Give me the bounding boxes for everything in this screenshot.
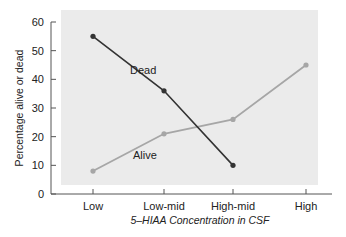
y-tick-label: 60 [32, 16, 44, 28]
data-point-alive [303, 62, 308, 67]
x-tick-label: High-mid [211, 200, 255, 212]
data-point-dead [161, 88, 166, 93]
y-axis-title: Percentage alive or dead [13, 49, 25, 166]
x-tick-label: Low [83, 200, 103, 212]
data-point-alive [161, 131, 166, 136]
x-tick-label: High [295, 200, 318, 212]
series-label-dead: Dead [130, 64, 156, 76]
data-point-alive [230, 117, 235, 122]
plot-background [61, 10, 318, 185]
y-tick-label: 40 [32, 73, 44, 85]
data-point-alive [90, 168, 95, 173]
series-label-alive: Alive [133, 149, 157, 161]
y-tick-label: 50 [32, 45, 44, 57]
y-tick-label: 10 [32, 159, 44, 171]
x-axis-title: 5–HIAA Concentration in CSF [130, 214, 270, 226]
y-tick-label: 0 [38, 188, 44, 200]
y-tick-label: 20 [32, 131, 44, 143]
data-point-dead [230, 163, 235, 168]
y-tick-label: 30 [32, 102, 44, 114]
x-tick-label: Low-mid [143, 200, 185, 212]
data-point-dead [90, 34, 95, 39]
line-chart: 0102030405060LowLow-midHigh-midHigh Dead… [0, 0, 346, 237]
